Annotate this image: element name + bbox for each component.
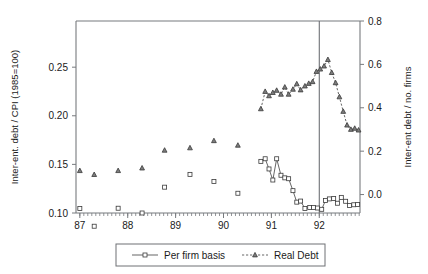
marker-triangle <box>322 64 327 69</box>
marker-square <box>332 196 336 200</box>
marker-triangle <box>188 145 193 150</box>
chart-legend: Per firm basisReal Debt <box>116 244 325 266</box>
marker-square <box>295 200 299 204</box>
series-real-debt <box>77 57 361 176</box>
marker-square <box>263 157 267 161</box>
marker-square <box>78 206 82 210</box>
marker-triangle <box>212 138 217 143</box>
marker-square <box>344 199 348 203</box>
marker-square <box>324 198 328 202</box>
marker-triangle <box>274 88 279 93</box>
marker-square <box>315 206 319 210</box>
legend-label-2: Real Debt <box>274 250 319 261</box>
marker-square <box>236 191 240 195</box>
y-tick-label-right: 0.4 <box>368 102 382 113</box>
marker-square <box>212 180 216 184</box>
marker-square <box>116 206 120 210</box>
marker-square <box>287 177 291 181</box>
y-axis-title-right: Inter-ent debt / no. firms <box>402 66 413 167</box>
marker-square <box>163 185 167 189</box>
y-tick-label-right: 0.0 <box>368 189 382 200</box>
y-tick-label-left: 0.20 <box>49 110 69 121</box>
x-tick-label: 92 <box>314 220 326 231</box>
marker-square <box>267 167 271 171</box>
marker-square <box>356 203 360 207</box>
marker-square <box>271 178 275 182</box>
legend-marker-square <box>143 253 147 257</box>
marker-square <box>320 207 324 211</box>
series-per-firm-basis <box>78 157 360 228</box>
marker-square <box>303 206 307 210</box>
marker-square <box>291 189 295 193</box>
y-tick-label-left: 0.25 <box>49 62 69 73</box>
marker-triangle <box>282 85 287 90</box>
x-tick-label: 89 <box>170 220 182 231</box>
y-tick-label-right: 0.8 <box>368 16 382 27</box>
y-axis-title-left: Inter-ent. debt / CPI (1985=100) <box>9 50 20 184</box>
marker-triangle <box>77 168 82 173</box>
x-tick-label: 90 <box>218 220 230 231</box>
marker-square <box>327 197 331 201</box>
y-tick-label-right: 0.6 <box>368 59 382 70</box>
chart-figure: 8788899091920.100.150.200.250.00.20.40.6… <box>0 0 428 274</box>
series-line <box>261 159 358 210</box>
marker-triangle <box>333 80 338 85</box>
marker-triangle <box>352 126 357 130</box>
y-tick-label-left: 0.15 <box>49 159 69 170</box>
marker-triangle <box>341 109 346 114</box>
x-tick-label: 88 <box>122 220 134 231</box>
marker-square <box>347 203 351 207</box>
marker-triangle <box>162 148 167 153</box>
marker-square <box>312 206 316 210</box>
marker-triangle <box>310 79 315 84</box>
marker-square <box>279 173 283 177</box>
marker-square <box>140 211 144 215</box>
marker-triangle <box>294 81 299 86</box>
marker-square <box>308 206 312 210</box>
marker-triangle <box>263 89 268 94</box>
marker-square <box>299 199 303 203</box>
marker-triangle <box>92 172 97 177</box>
marker-triangle <box>345 123 350 128</box>
marker-triangle <box>235 143 240 148</box>
marker-square <box>275 157 279 161</box>
marker-triangle <box>326 57 331 62</box>
legend-label-1: Per firm basis <box>164 250 225 261</box>
marker-square <box>335 201 339 205</box>
chart-canvas: 8788899091920.100.150.200.250.00.20.40.6… <box>0 0 428 274</box>
y-tick-label-left: 0.10 <box>49 208 69 219</box>
marker-triangle <box>116 168 121 173</box>
marker-triangle <box>329 70 334 75</box>
marker-triangle <box>140 165 145 170</box>
x-tick-label: 91 <box>266 220 278 231</box>
marker-square <box>259 159 263 163</box>
marker-square <box>188 172 192 176</box>
marker-triangle <box>337 94 342 99</box>
marker-square <box>92 224 96 228</box>
marker-square <box>352 203 356 207</box>
marker-square <box>283 176 287 180</box>
y-tick-label-right: 0.2 <box>368 146 382 157</box>
marker-square <box>339 195 343 199</box>
marker-triangle <box>258 106 263 111</box>
x-tick-label: 87 <box>74 220 86 231</box>
